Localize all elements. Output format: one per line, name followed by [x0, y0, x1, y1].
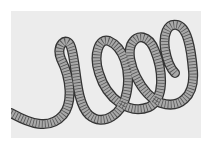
image-panel — [11, 11, 201, 138]
coiled-tube-illustration — [11, 11, 201, 138]
